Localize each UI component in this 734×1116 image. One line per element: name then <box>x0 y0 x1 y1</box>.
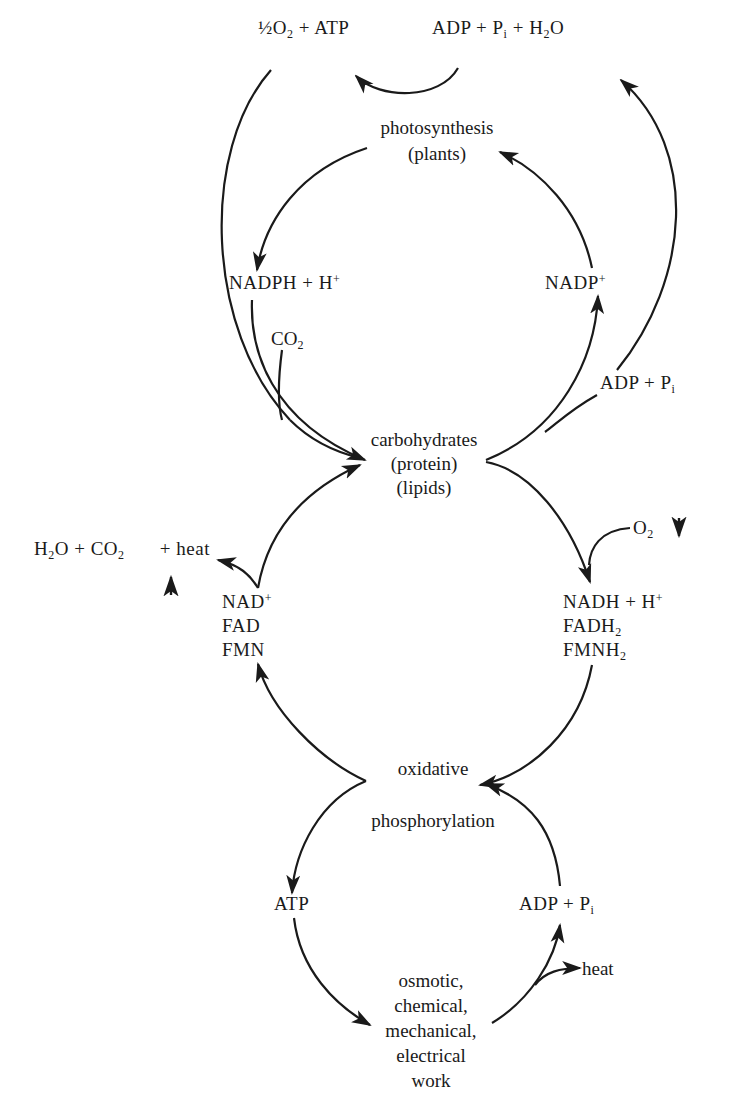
label-phosphorylation: phosphorylation <box>371 810 495 832</box>
arrow-adp-to-atp-top <box>356 68 458 93</box>
arrow-o2-in <box>589 528 630 565</box>
label-half-o2-atp: ½O2 + ATP <box>258 17 349 39</box>
lipids-text: (lipids) <box>371 476 478 500</box>
o2-sub: 2 <box>647 527 654 541</box>
arrow-carbohydrates-to-nadp <box>486 296 598 460</box>
co2-sub: 2 <box>297 338 303 352</box>
label-nadp: NADP+ <box>545 272 606 294</box>
nadph-text: NADPH + H <box>229 272 333 293</box>
label-oxidized-carriers: NAD+ FAD FMN <box>222 590 272 662</box>
label-reduced-carriers: NADH + H+ FADH2 FMNH2 <box>563 590 663 662</box>
mechanical-text: mechanical, <box>385 1018 476 1043</box>
o-co-text: O + CO <box>55 538 118 559</box>
label-heat-bottom: heat <box>582 958 614 980</box>
co2-text: CO <box>271 328 297 349</box>
heat-text: + heat <box>160 538 210 559</box>
work-text: work <box>385 1068 476 1093</box>
nadh-text: NADH + H <box>563 591 656 612</box>
label-adp-pi-mid: ADP + Pi <box>600 372 675 394</box>
arrow-photosynthesis-to-nadph <box>257 148 367 270</box>
plants-text: (plants) <box>381 141 494 167</box>
o2-text: ½O <box>258 17 287 38</box>
osmotic-text: osmotic, <box>385 968 476 993</box>
adp-pi-text: ADP + P <box>600 372 672 393</box>
adp-text: ADP + P <box>432 17 504 38</box>
o-text: O <box>550 17 564 38</box>
nad-text: NAD <box>222 591 265 612</box>
fadh-text: FADH <box>563 615 615 636</box>
nadh-sup: + <box>656 591 663 605</box>
pi-sub: i <box>672 382 676 396</box>
co2-sub: 2 <box>118 548 125 562</box>
label-o2-in: O2 <box>633 517 654 539</box>
arrow-adp-pi-to-oxphos <box>486 784 560 886</box>
arrow-nadp-to-photosynthesis <box>500 152 592 268</box>
nadph-sup: + <box>333 272 340 286</box>
label-h2o-co2-heat: H2O + CO2 + heat <box>34 538 210 560</box>
chemical-text: chemical, <box>385 993 476 1018</box>
label-oxidative: oxidative <box>398 758 469 780</box>
protein-text: (protein) <box>371 452 478 476</box>
arrow-release-heat <box>218 560 258 588</box>
label-atp-bottom: ATP <box>274 893 309 915</box>
arrow-heat-release <box>535 968 580 985</box>
nadp-sup: + <box>599 272 606 286</box>
h-text: H <box>34 538 48 559</box>
arrow-atp-to-work <box>294 918 370 1025</box>
label-work: osmotic, chemical, mechanical, electrica… <box>385 968 476 1093</box>
adp-pi-text: ADP + P <box>519 893 591 914</box>
o2-text: O <box>633 517 647 538</box>
electrical-text: electrical <box>385 1043 476 1068</box>
pi-sub: i <box>591 903 595 917</box>
arrow-oxphos-to-nad <box>258 664 366 781</box>
label-carbohydrates: carbohydrates (protein) (lipids) <box>371 428 478 500</box>
label-adp-pi-bottom: ADP + Pi <box>519 893 594 915</box>
label-co2-in: CO2 <box>271 328 303 350</box>
nadp-text: NADP <box>545 272 599 293</box>
nad-sup: + <box>265 591 272 605</box>
fmn-text: FMN <box>222 638 272 662</box>
label-photosynthesis: photosynthesis (plants) <box>381 115 494 167</box>
arrow-nadh-to-oxphos <box>480 665 592 785</box>
arrow-oxphos-to-atp <box>292 781 366 893</box>
fmnh-sub: 2 <box>620 649 627 663</box>
photosynthesis-text: photosynthesis <box>381 115 494 141</box>
fmnh-text: FMNH <box>563 639 620 660</box>
arrow-nad-to-carbohydrates <box>258 465 360 588</box>
carbohydrates-text: carbohydrates <box>371 428 478 452</box>
label-nadph: NADPH + H+ <box>229 272 340 294</box>
fadh-sub: 2 <box>615 625 622 639</box>
arrow-outer-right-to-h2o <box>617 80 676 370</box>
fad-text: FAD <box>222 614 272 638</box>
atp-text: + ATP <box>293 17 349 38</box>
label-adp-pi-h2o: ADP + Pi + H2O <box>432 17 564 39</box>
h-text: + H <box>507 17 543 38</box>
arrow-carbohydrates-to-nadh <box>486 462 590 582</box>
